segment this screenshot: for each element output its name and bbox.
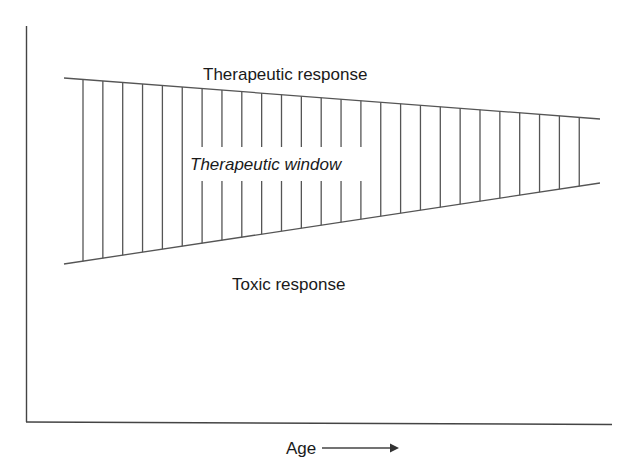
toxic-response-boundary: [64, 183, 600, 264]
x-axis-label: Age: [286, 440, 316, 457]
toxic-response-label: Toxic response: [232, 276, 345, 293]
therapeutic-window-label: Therapeutic window: [190, 156, 341, 173]
x-axis: [26, 422, 612, 425]
therapeutic-response-label: Therapeutic response: [203, 66, 367, 83]
therapeutic-response-boundary: [64, 78, 600, 119]
age-arrow-icon: [322, 444, 399, 453]
